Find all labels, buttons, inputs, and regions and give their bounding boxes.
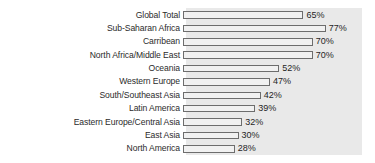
- category-label: South/Southeast Asia: [0, 91, 183, 100]
- category-label: Carribean: [0, 37, 183, 46]
- bar-row: South/Southeast Asia42%: [0, 89, 375, 102]
- bar-value-label: 28%: [238, 144, 256, 153]
- category-label: East Asia: [0, 131, 183, 140]
- category-label: Eastern Europe/Central Asia: [0, 118, 183, 127]
- bar-track: 47%: [183, 75, 375, 88]
- bar-value-label: 77%: [329, 24, 347, 33]
- bar-segment: [183, 132, 239, 140]
- bar-track: 52%: [183, 62, 375, 75]
- bar-row: Global Total65%: [0, 9, 375, 22]
- bar-value-label: 52%: [282, 64, 300, 73]
- bar-segment: [183, 145, 235, 153]
- bar-segment: [183, 92, 261, 100]
- bar-value-label: 70%: [316, 51, 334, 60]
- bar-track: 30%: [183, 129, 375, 142]
- bar-value-label: 70%: [316, 37, 334, 46]
- bar-row: Sub-Saharan Africa77%: [0, 22, 375, 35]
- bar-track: 70%: [183, 35, 375, 48]
- bar-row: Eastern Europe/Central Asia32%: [0, 115, 375, 128]
- bar-value-label: 65%: [306, 11, 324, 20]
- bar-track: 77%: [183, 22, 375, 35]
- bar-value-label: 32%: [245, 118, 263, 127]
- category-label: Global Total: [0, 11, 183, 20]
- bar-track: 70%: [183, 49, 375, 62]
- bar-row: Carribean70%: [0, 35, 375, 48]
- category-label: Latin America: [0, 104, 183, 113]
- category-label: Oceania: [0, 64, 183, 73]
- bar-row: Oceania52%: [0, 62, 375, 75]
- bar-segment: [183, 105, 255, 113]
- category-label: North Africa/Middle East: [0, 51, 183, 60]
- bar-value-label: 30%: [242, 131, 260, 140]
- bar-chart: Global Total65%Sub-Saharan Africa77%Carr…: [0, 0, 375, 163]
- bar-segment: [183, 118, 242, 126]
- bar-track: 65%: [183, 9, 375, 22]
- bar-segment: [183, 11, 303, 19]
- bar-segment: [183, 65, 279, 73]
- bar-track: 28%: [183, 142, 375, 155]
- bar-segment: [183, 25, 326, 33]
- bar-row: North America28%: [0, 142, 375, 155]
- bar-value-label: 39%: [258, 104, 276, 113]
- bar-segment: [183, 38, 313, 46]
- bar-track: 32%: [183, 115, 375, 128]
- bar-value-label: 42%: [264, 91, 282, 100]
- bar-track: 39%: [183, 102, 375, 115]
- bar-segment: [183, 51, 313, 59]
- bar-row: North Africa/Middle East70%: [0, 49, 375, 62]
- category-label: North America: [0, 144, 183, 153]
- bar-row: Western Europe47%: [0, 75, 375, 88]
- category-label: Sub-Saharan Africa: [0, 24, 183, 33]
- category-label: Western Europe: [0, 77, 183, 86]
- bar-track: 42%: [183, 89, 375, 102]
- bar-row: East Asia30%: [0, 129, 375, 142]
- bar-value-label: 47%: [273, 77, 291, 86]
- bar-segment: [183, 78, 270, 86]
- bar-row: Latin America39%: [0, 102, 375, 115]
